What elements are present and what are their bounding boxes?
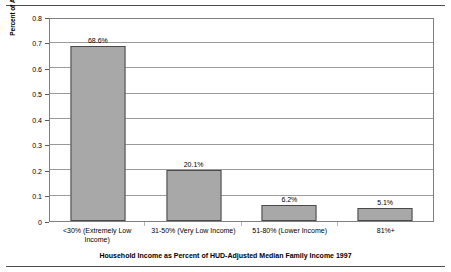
x-axis-category-label-line: <30% (Extremely Low: [51, 226, 143, 235]
y-axis-tick-labels: 00.10.20.30.40.50.60.70.8: [0, 18, 49, 222]
x-axis-category-label-line: Income): [51, 235, 143, 244]
x-axis-category-label-line: 81%+: [340, 226, 432, 235]
x-axis-category-label: <30% (Extremely LowIncome): [49, 226, 145, 244]
y-axis-tick-label: 0: [38, 219, 45, 226]
chart-figure: Percent of All Unassisted Renter Househo…: [0, 0, 451, 272]
bar-value-label: 5.1%: [377, 199, 393, 206]
x-axis-category-label-line: 51-80% (Lower Income): [244, 226, 336, 235]
x-axis-category-label: 81%+: [338, 226, 434, 244]
x-axis-category-label: 31-50% (Very Low Income): [145, 226, 241, 244]
bar-value-label: 20.1%: [184, 161, 204, 168]
bottom-divider-rule: [6, 266, 445, 267]
top-divider-rule: [6, 5, 445, 6]
x-axis-category-labels: <30% (Extremely LowIncome)31-50% (Very L…: [49, 226, 434, 244]
bar-value-label: 6.2%: [281, 196, 297, 203]
plot-area: 68.6%20.1%6.2%5.1%: [49, 18, 434, 222]
bar-slot: 5.1%: [337, 19, 433, 221]
y-axis-tick-label: 0.5: [32, 91, 45, 98]
y-axis-tick-label: 0.4: [32, 117, 45, 124]
bar-slot: 6.2%: [242, 19, 338, 221]
bar-slot: 20.1%: [146, 19, 242, 221]
x-axis-category-label-line: 31-50% (Very Low Income): [147, 226, 239, 235]
bar-series: 68.6%20.1%6.2%5.1%: [50, 19, 433, 221]
bar[interactable]: [358, 208, 413, 221]
y-axis-tick-label: 0.2: [32, 168, 45, 175]
y-axis-tick-label: 0.8: [32, 15, 45, 22]
bar-slot: 68.6%: [50, 19, 146, 221]
y-axis-tick-label: 0.3: [32, 142, 45, 149]
y-axis-tick-label: 0.7: [32, 40, 45, 47]
bar-value-label: 68.6%: [88, 37, 108, 44]
x-axis-category-label: 51-80% (Lower Income): [242, 226, 338, 244]
x-axis-title: Household Income as Percent of HUD-Adjus…: [0, 252, 451, 259]
bar[interactable]: [166, 170, 221, 221]
bar[interactable]: [262, 205, 317, 221]
y-axis-tick-label: 0.6: [32, 66, 45, 73]
y-axis-tick-label: 0.1: [32, 193, 45, 200]
bar[interactable]: [70, 46, 125, 221]
